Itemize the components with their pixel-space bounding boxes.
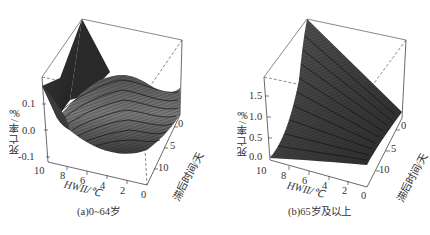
z-tick-a-1: 0.0	[22, 126, 35, 137]
y-tick-b-1: 5	[391, 144, 396, 155]
x-tick-b-5: 0	[361, 191, 366, 202]
x-tick-b-1: 8	[281, 171, 286, 182]
z-tick-b-0: 1.5	[249, 91, 262, 102]
chart-panel-a: 0.1 0.0 -0.1 死亡率/‰ 10 8 6 4 2 0 HWII/℃ 0…	[0, 0, 215, 235]
chart-panel-b: 1.5 1.0 0.5 0.0 死亡率/‰ 10 8 6 4 2 0 HWII/…	[215, 0, 430, 235]
y-tick-b-0: 0	[401, 121, 406, 132]
x-tick-b-4: 2	[342, 186, 347, 197]
x-tick-a-5: 0	[141, 190, 146, 201]
caption-b: (b)65岁及以上	[288, 203, 351, 218]
y-tick-a-2: 10	[158, 163, 169, 174]
y-tick-a-1: 5	[170, 141, 175, 152]
y-tick-a-0: 0	[178, 119, 183, 130]
x-tick-b-0: 10	[256, 166, 267, 177]
z-axis-label-b: 死亡率/‰	[235, 110, 250, 157]
z-tick-b-1: 1.0	[249, 112, 262, 123]
x-tick-a-0: 10	[34, 166, 45, 177]
z-axis-label-a: 死亡率/‰	[7, 108, 22, 155]
x-tick-a-4: 2	[120, 186, 125, 197]
z-tick-b-2: 0.5	[249, 133, 262, 144]
z-tick-b-3: 0.0	[249, 152, 262, 163]
caption-a: (a)0~64岁	[77, 203, 120, 218]
z-tick-a-0: 0.1	[22, 99, 35, 110]
y-tick-b-2: 10	[379, 165, 390, 176]
